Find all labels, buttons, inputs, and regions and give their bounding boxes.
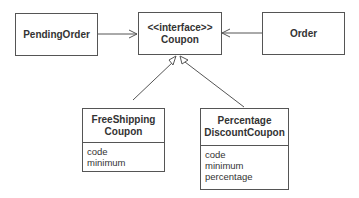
class-name: Order xyxy=(290,28,317,40)
attribute: minimum xyxy=(205,160,284,171)
class-pendingorder: PendingOrder xyxy=(15,13,98,56)
class-name: PendingOrder xyxy=(23,29,90,41)
class-order: Order xyxy=(262,12,345,55)
class-name-line1: Percentage xyxy=(201,115,288,127)
class-name: Coupon xyxy=(161,34,199,46)
hollow-triangle-icon xyxy=(169,56,176,65)
attributes: code minimum xyxy=(83,142,164,171)
stereotype: <<interface>> xyxy=(147,22,212,34)
class-percentagediscountcoupon: Percentage DiscountCoupon code minimum p… xyxy=(200,108,289,190)
class-name-line2: DiscountCoupon xyxy=(201,127,288,139)
attribute: code xyxy=(87,146,160,157)
class-name-line1: FreeShipping xyxy=(83,114,164,126)
attribute: minimum xyxy=(87,157,160,168)
class-freeshippingcoupon: FreeShipping Coupon code minimum xyxy=(82,108,165,172)
attribute: percentage xyxy=(205,171,284,182)
realization-freeshipping-coupon xyxy=(133,62,173,100)
class-name-line2: Coupon xyxy=(83,126,164,138)
interface-coupon: <<interface>> Coupon xyxy=(138,12,222,55)
realization-percentage-coupon xyxy=(185,62,244,107)
attributes: code minimum percentage xyxy=(201,145,288,185)
attribute: code xyxy=(205,149,284,160)
